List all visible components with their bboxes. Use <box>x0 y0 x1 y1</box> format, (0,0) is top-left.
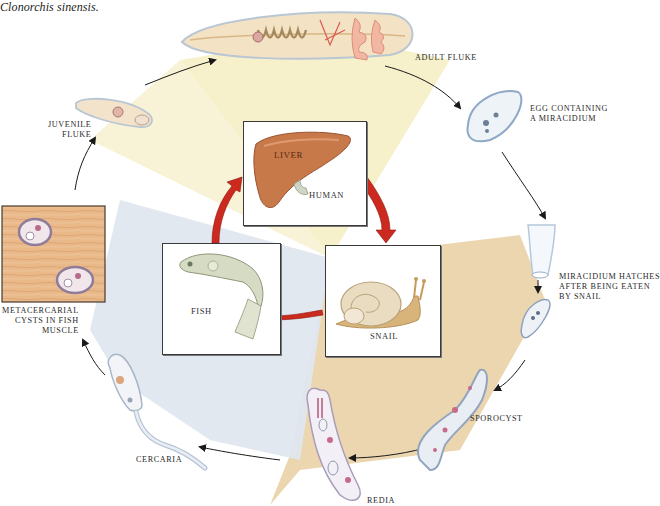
human-host-box: LIVER HUMAN <box>243 121 367 226</box>
fish-icon <box>163 244 280 354</box>
sporocyst-label: SPOROCYST <box>470 414 523 424</box>
metacercarial-cysts-label: METACERCARIAL CYSTS IN FISH MUSCLE <box>2 306 79 336</box>
liver-label: LIVER <box>274 150 303 160</box>
human-label: HUMAN <box>309 190 344 200</box>
fish-label: FISH <box>191 306 212 316</box>
fish-host-box: FISH <box>162 243 281 355</box>
miracidium-label: MIRACIDIUM HATCHES AFTER BEING EATEN BY … <box>559 272 660 302</box>
adult-fluke-illustration <box>182 12 413 60</box>
figure-caption: Clonorchis sinensis. <box>0 0 99 15</box>
egg-illustration <box>468 91 522 141</box>
snail-host-box: SNAIL <box>325 245 441 357</box>
fish-muscle-box <box>2 206 105 302</box>
liver-icon <box>244 122 366 225</box>
redia-label: REDIA <box>367 496 395 506</box>
egg-label: EGG CONTAINING A MIRACIDIUM <box>530 104 608 124</box>
juvenile-fluke-label: JUVENILE FLUKE <box>48 120 91 140</box>
cercaria-label: CERCARIA <box>136 455 182 465</box>
adult-fluke-label: ADULT FLUKE <box>415 53 477 63</box>
snail-label: SNAIL <box>370 331 398 341</box>
